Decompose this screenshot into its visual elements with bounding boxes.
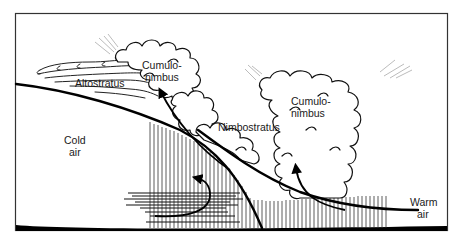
cold-front-diagram: Altostratus Cumulo- nimbus Cumulo- nimbu… [0, 0, 463, 243]
label-warm-air-2: air [417, 208, 429, 220]
cold-front-boundary [16, 84, 262, 228]
label-cumulonimbus-left-2: nimbus [145, 71, 179, 83]
label-cold-air-1: Cold [64, 134, 86, 146]
label-altostratus: Altostratus [75, 77, 125, 89]
label-cold-air-2: air [69, 146, 81, 158]
label-cumulonimbus-left-1: Cumulo- [142, 59, 182, 71]
label-nimbostratus: Nimbostratus [218, 121, 280, 133]
label-warm-air-1: Warm [410, 196, 438, 208]
label-cumulonimbus-right-1: Cumulo- [291, 95, 331, 107]
stratus-fog [124, 193, 243, 222]
label-cumulonimbus-right-2: nimbus [291, 107, 325, 119]
